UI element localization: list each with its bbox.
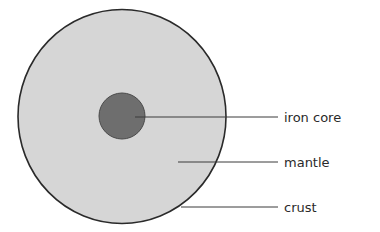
mantle-label: mantle (284, 155, 330, 170)
crust-label: crust (284, 200, 317, 215)
iron-core-label: iron core (284, 110, 341, 125)
iron-core-circle (99, 93, 145, 139)
earth-structure-diagram: iron core mantle crust (0, 0, 380, 232)
